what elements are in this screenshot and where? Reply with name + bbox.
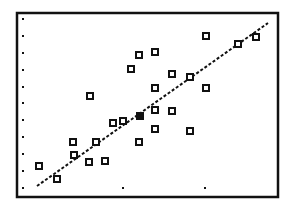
data-point-marker xyxy=(85,158,93,166)
data-point-marker xyxy=(202,32,210,40)
data-point-marker xyxy=(92,138,100,146)
data-point-marker xyxy=(151,84,159,92)
y-axis-ticks xyxy=(22,18,24,189)
x-tick-mark xyxy=(204,187,206,189)
data-point-marker xyxy=(151,48,159,56)
data-point-marker xyxy=(151,125,159,133)
y-tick-mark xyxy=(22,102,24,104)
y-tick-mark xyxy=(22,187,24,189)
data-point-marker xyxy=(186,73,194,81)
data-point-marker xyxy=(35,162,43,170)
y-tick-mark xyxy=(22,86,24,88)
y-tick-mark xyxy=(22,153,24,155)
data-point-marker xyxy=(109,119,117,127)
data-point-marker xyxy=(101,157,109,165)
data-point-marker xyxy=(69,138,77,146)
data-point-marker xyxy=(136,112,144,120)
data-point-marker xyxy=(202,84,210,92)
y-tick-mark xyxy=(22,170,24,172)
data-point-marker xyxy=(53,175,61,183)
y-tick-mark xyxy=(22,18,24,20)
x-axis-ticks xyxy=(122,187,206,189)
y-tick-mark xyxy=(22,136,24,138)
data-point-marker xyxy=(135,51,143,59)
data-point-marker xyxy=(135,138,143,146)
data-point-marker xyxy=(168,107,176,115)
data-point-marker xyxy=(151,106,159,114)
data-point-marker xyxy=(119,117,127,125)
scatter-plot xyxy=(0,0,292,210)
data-point-marker xyxy=(86,92,94,100)
data-point-marker xyxy=(186,127,194,135)
data-point-marker xyxy=(127,65,135,73)
y-tick-mark xyxy=(22,35,24,37)
y-tick-mark xyxy=(22,52,24,54)
data-point-marker xyxy=(168,70,176,78)
data-point-marker xyxy=(252,33,260,41)
data-point-marker xyxy=(70,151,78,159)
x-tick-mark xyxy=(122,187,124,189)
y-tick-mark xyxy=(22,69,24,71)
regression-line xyxy=(37,23,268,186)
y-tick-mark xyxy=(22,119,24,121)
data-point-marker xyxy=(234,40,242,48)
